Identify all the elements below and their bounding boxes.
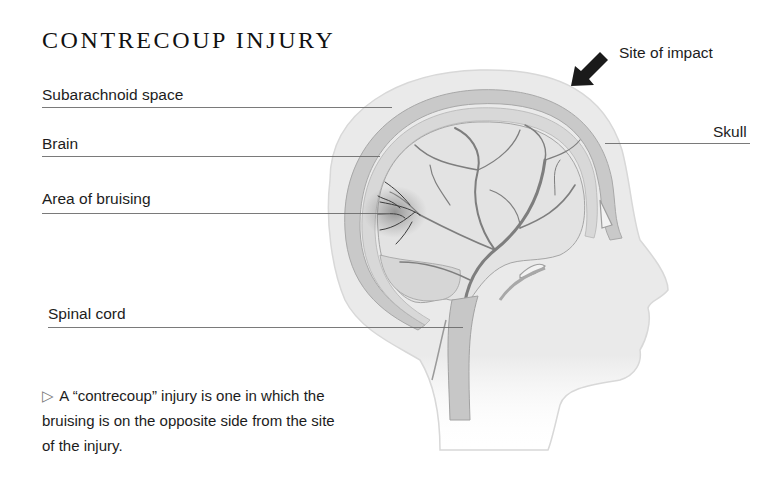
label-subarachnoid-space: Subarachnoid space	[42, 86, 183, 104]
label-spinal-cord: Spinal cord	[48, 305, 126, 323]
impact-arrow-icon	[571, 52, 608, 86]
label-area-of-bruising: Area of bruising	[42, 190, 151, 208]
label-site-of-impact: Site of impact	[619, 44, 713, 62]
caption-text: A “contrecoup” injury is one in which th…	[42, 387, 335, 454]
label-brain: Brain	[42, 135, 78, 153]
triangle-marker-icon: ▷	[42, 387, 54, 404]
caption: ▷ A “contrecoup” injury is one in which …	[42, 383, 342, 458]
label-skull: Skull	[713, 123, 747, 141]
